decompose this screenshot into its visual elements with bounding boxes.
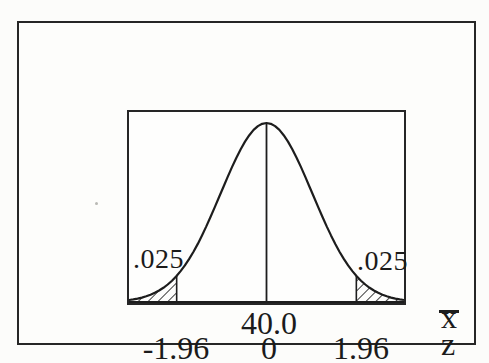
z-axis-label: z [441,328,455,360]
figure-frame: .025 .025 40.0 x -1.96 0 1.96 z [17,21,476,345]
right-tail-area-label: .025 [357,247,408,275]
z-tick-neg-196: -1.96 [143,332,210,363]
z-tick-pos-196: 1.96 [333,332,389,363]
scan-speck-artifact [95,202,98,205]
left-tail-area-label: .025 [133,245,184,273]
overbar-mark [439,310,459,313]
z-tick-zero: 0 [261,332,277,363]
